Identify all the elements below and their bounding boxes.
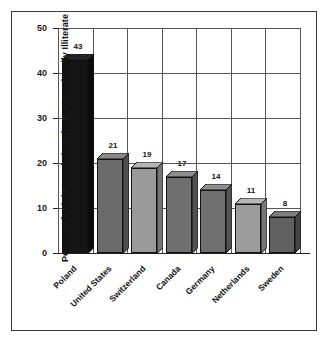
bar-value-label: 14	[196, 173, 236, 181]
bar-top-face	[166, 171, 192, 177]
bar-value-label: 21	[93, 142, 133, 150]
bar-top-face	[97, 153, 123, 159]
bar-top-face	[235, 198, 261, 204]
bar-switzerland[interactable]	[131, 162, 157, 254]
bar-value-label: 17	[162, 160, 202, 168]
bar-front-face	[235, 204, 261, 254]
x-axis-line	[58, 253, 310, 254]
bar-front-face	[131, 168, 157, 254]
bar-top-face	[131, 162, 157, 168]
bar-side-face	[295, 211, 301, 253]
y-tick-mark	[53, 73, 58, 74]
bar-value-label: 8	[265, 200, 305, 208]
bar-united-states[interactable]	[97, 153, 123, 254]
y-tick-mark	[53, 163, 58, 164]
bar-top-face	[200, 184, 226, 190]
y-tick-mark	[53, 118, 58, 119]
y-tick-label: 30	[27, 114, 47, 123]
bar-canada[interactable]	[166, 171, 192, 254]
bar-side-face	[88, 54, 94, 254]
y-axis-title: Percent of Adult Population That Is Func…	[60, 0, 70, 352]
bar-front-face	[166, 177, 192, 254]
y-tick-label: 10	[27, 204, 47, 213]
bar-side-face	[157, 162, 163, 254]
y-tick-mark	[53, 253, 58, 254]
y-tick-mark	[53, 28, 58, 29]
bar-front-face	[200, 190, 226, 253]
chart-figure: 4321191714118 Percent of Adult Populatio…	[0, 0, 330, 352]
bar-side-face	[192, 171, 198, 254]
y-tick-label: 50	[27, 24, 47, 33]
bar-value-label: 11	[231, 187, 271, 195]
gridline-horizontal	[58, 118, 300, 119]
y-tick-label: 0	[27, 249, 47, 258]
bar-value-label: 19	[127, 151, 167, 159]
bar-netherlands[interactable]	[235, 198, 261, 254]
bar-sweden[interactable]	[269, 211, 295, 253]
bar-front-face	[97, 159, 123, 254]
y-tick-label: 20	[27, 159, 47, 168]
y-tick-mark	[53, 208, 58, 209]
bar-top-face	[269, 211, 295, 217]
bar-germany[interactable]	[200, 184, 226, 253]
gridline-horizontal	[58, 28, 300, 29]
gridline-vertical	[58, 28, 59, 253]
gridline-horizontal	[58, 73, 300, 74]
bar-front-face	[269, 217, 295, 253]
plot-area: 4321191714118 Percent of Adult Populatio…	[58, 28, 300, 253]
y-tick-label: 40	[27, 69, 47, 78]
bar-side-face	[123, 153, 129, 254]
